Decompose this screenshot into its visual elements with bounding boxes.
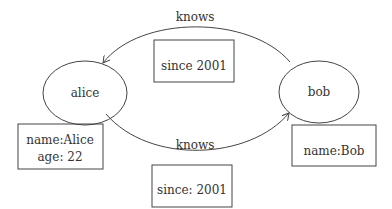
node-alice-label: alice (71, 86, 100, 100)
bob-prop-name: name:Bob (303, 144, 364, 158)
alice-prop-age: age: 22 (37, 150, 82, 164)
edge-property-top: since 2001 (161, 59, 227, 73)
alice-prop-name: name:Alice (26, 133, 94, 147)
edge-label-alice-bob: knows (176, 138, 215, 152)
graph-diagram: knows knows alice bob since 2001 name:Al… (0, 0, 392, 209)
node-bob-label: bob (308, 85, 331, 99)
edge-bob-alice (103, 27, 290, 63)
edge-property-bottom: since: 2001 (157, 183, 227, 197)
edge-label-bob-alice: knows (176, 10, 215, 24)
